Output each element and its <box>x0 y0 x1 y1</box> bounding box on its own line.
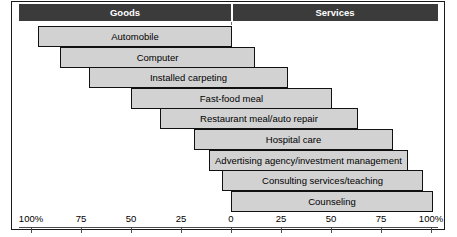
axis-tick-label-3: 25 <box>176 213 187 225</box>
bar-1: Computer <box>60 47 255 68</box>
bar-8: Counseling <box>231 191 433 212</box>
bar-label-2: Installed carpeting <box>90 68 287 87</box>
axis-tick-8 <box>431 227 432 233</box>
axis-tick-6 <box>331 227 332 233</box>
bar-5: Hospital care <box>194 129 393 150</box>
bar-label-4: Restaurant meal/auto repair <box>161 109 357 128</box>
bar-7: Consulting services/teaching <box>222 170 423 191</box>
axis-tick-0 <box>31 227 32 233</box>
bar-0: Automobile <box>38 26 232 47</box>
bar-label-8: Counseling <box>232 192 432 211</box>
bar-4: Restaurant meal/auto repair <box>160 108 358 129</box>
axis-tick-label-6: 50 <box>326 213 337 225</box>
axis-tick-label-4: 0 <box>228 213 233 225</box>
axis-tick-label-5: 25 <box>276 213 287 225</box>
bar-label-1: Computer <box>61 48 254 67</box>
axis-tick-label-0: 100% <box>19 213 43 225</box>
bar-6: Advertising agency/investment management <box>209 150 408 171</box>
bar-label-6: Advertising agency/investment management <box>210 151 407 170</box>
axis-tick-2 <box>131 227 132 233</box>
bar-label-5: Hospital care <box>195 130 392 149</box>
bar-label-0: Automobile <box>39 27 231 46</box>
axis-tick-label-8: 100% <box>419 213 443 225</box>
bar-label-7: Consulting services/teaching <box>223 171 422 190</box>
goods-services-continuum-chart: Goods Services AutomobileComputerInstall… <box>0 0 457 237</box>
axis-tick-4 <box>231 227 232 233</box>
bar-3: Fast-food meal <box>131 88 332 109</box>
axis-tick-5 <box>281 227 282 233</box>
axis-tick-label-2: 50 <box>126 213 137 225</box>
plot-area: AutomobileComputerInstalled carpetingFas… <box>0 0 457 237</box>
axis-tick-label-7: 75 <box>376 213 387 225</box>
axis-tick-1 <box>81 227 82 233</box>
axis-tick-3 <box>181 227 182 233</box>
bar-2: Installed carpeting <box>89 67 288 88</box>
bar-label-3: Fast-food meal <box>132 89 331 108</box>
axis-tick-label-1: 75 <box>76 213 87 225</box>
axis-tick-7 <box>381 227 382 233</box>
